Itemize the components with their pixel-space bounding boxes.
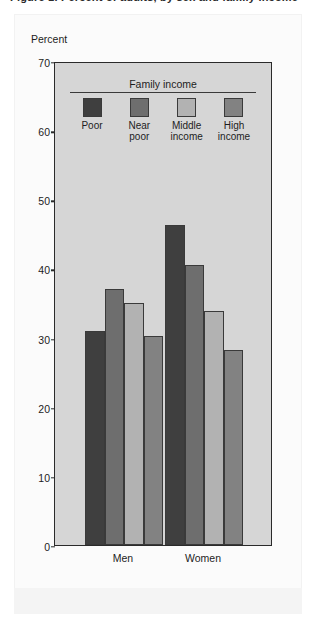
legend-label: Middleincome [165, 120, 209, 142]
legend-item-poor: Poor [70, 98, 114, 142]
y-tick-mark [51, 408, 55, 409]
legend-item-near: Nearpoor [117, 98, 161, 142]
y-tick-mark [51, 546, 55, 547]
y-tick-label: 10 [38, 472, 50, 484]
y-tick-mark [51, 201, 55, 202]
y-tick-label: 30 [38, 334, 50, 346]
y-axis-title: Percent [31, 33, 67, 45]
legend-swatch-poor [83, 98, 102, 117]
legend-label: Poor [70, 120, 114, 131]
y-tick-mark [51, 62, 55, 63]
legend-item-middle: Middleincome [165, 98, 209, 142]
legend-label: Nearpoor [117, 120, 161, 142]
y-tick-label: 50 [38, 195, 50, 207]
bar-women-high-income [224, 350, 244, 545]
y-tick-mark [51, 131, 55, 132]
bar-men-poor [85, 331, 105, 545]
legend-rule [70, 92, 256, 93]
bar-women-middle-income [204, 311, 224, 545]
legend-item-high: Highincome [212, 98, 256, 142]
legend-label: Highincome [212, 120, 256, 142]
bar-women-poor [165, 225, 185, 545]
x-axis-label-women: Women [185, 552, 221, 564]
y-tick-mark [51, 270, 55, 271]
figure-panel-footer [14, 588, 302, 614]
y-tick-label: 0 [44, 541, 50, 553]
y-tick-label: 40 [38, 264, 50, 276]
figure-title-text: Figure 1. Percent of adults, by sex and … [10, 0, 298, 3]
x-axis-label-men: Men [113, 552, 133, 564]
y-tick-label: 60 [38, 126, 50, 138]
figure-title-clipped: Figure 1. Percent of adults, by sex and … [0, 0, 316, 11]
bar-men-near-poor [105, 289, 125, 545]
bar-men-middle-income [124, 303, 144, 545]
bar-women-near-poor [185, 265, 205, 545]
legend-swatch-high [224, 98, 243, 117]
chart-legend: Family income PoorNearpoorMiddleincomeHi… [70, 78, 256, 142]
y-tick-label: 20 [38, 403, 50, 415]
bar-men-high-income [144, 336, 164, 546]
legend-items: PoorNearpoorMiddleincomeHighincome [70, 98, 256, 142]
legend-swatch-middle [177, 98, 196, 117]
y-tick-label: 70 [38, 57, 50, 69]
legend-swatch-near [130, 98, 149, 117]
y-tick-mark [51, 339, 55, 340]
legend-title: Family income [70, 78, 256, 90]
y-tick-mark [51, 477, 55, 478]
